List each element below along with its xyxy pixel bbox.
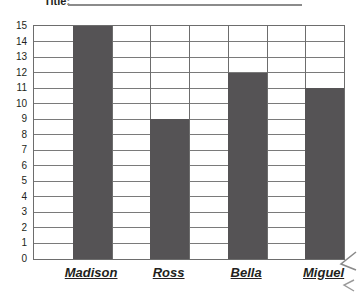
y-axis-tick-label: 12 xyxy=(16,68,27,78)
gridline-vertical xyxy=(189,26,190,259)
title-underline-rule xyxy=(68,4,302,6)
y-axis-tick-label: 4 xyxy=(21,192,27,202)
y-axis-tick-label: 1 xyxy=(21,238,27,248)
y-axis-tick-label: 8 xyxy=(21,130,27,140)
bar-chart xyxy=(33,25,345,260)
y-axis-tick-label: 6 xyxy=(21,161,27,171)
y-axis-tick-label: 11 xyxy=(17,83,27,93)
y-axis-tick-label: 7 xyxy=(21,145,27,155)
y-axis-tick-label: 3 xyxy=(21,207,27,217)
bar-madison xyxy=(73,26,112,259)
bar-ross xyxy=(150,119,189,259)
y-axis-tick-label: 10 xyxy=(16,99,27,109)
bar-miguel xyxy=(305,88,344,259)
y-axis-tick-label: 14 xyxy=(16,37,27,47)
y-axis-tick-label: 13 xyxy=(16,52,27,62)
title-row: Title: xyxy=(0,0,358,13)
y-axis: 1514131211109876543210 xyxy=(0,25,31,260)
bar-bella xyxy=(228,73,267,259)
y-axis-tick-label: 15 xyxy=(16,21,27,31)
gridline-vertical xyxy=(267,26,268,259)
page-title: Title: xyxy=(44,0,70,8)
y-axis-tick-label: 2 xyxy=(21,223,27,233)
x-axis-label-miguel: Miguel xyxy=(274,264,358,281)
y-axis-tick-label: 9 xyxy=(21,114,27,124)
y-axis-tick-label: 5 xyxy=(21,176,27,186)
plot-area xyxy=(34,26,344,259)
x-axis: MadisonRossBellaMiguel xyxy=(33,264,345,288)
y-axis-tick-label: 0 xyxy=(21,254,27,264)
gridline-vertical xyxy=(112,26,113,259)
